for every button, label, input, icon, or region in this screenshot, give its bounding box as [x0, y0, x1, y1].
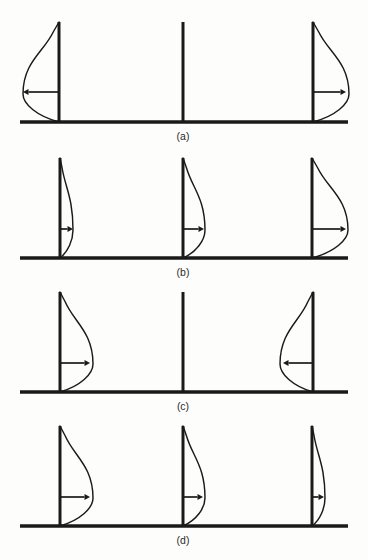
station-right-profile-curve — [312, 158, 348, 258]
station-right-arrow — [313, 89, 346, 95]
panel-label: (c) — [177, 400, 189, 412]
panels-group: (a)(b)(c)(d) — [20, 22, 349, 546]
station-group — [312, 158, 348, 258]
panel-label: (a) — [177, 130, 190, 142]
panel-c: (c) — [20, 292, 348, 412]
station-group — [313, 22, 349, 122]
station-right-profile-curve — [280, 292, 313, 392]
station-left-arrow — [60, 494, 90, 500]
panel-label: (b) — [177, 266, 190, 278]
panel-a: (a) — [20, 22, 349, 142]
figure-root: (a)(b)(c)(d) — [0, 0, 368, 560]
station-middle-arrow — [183, 226, 204, 232]
station-group — [312, 426, 325, 526]
station-left-arrow — [60, 226, 73, 232]
station-group — [23, 22, 59, 122]
station-group — [60, 292, 93, 392]
arrow-head-icon — [341, 226, 347, 232]
station-middle-profile-curve — [183, 426, 205, 526]
station-group — [183, 426, 205, 526]
station-group — [280, 292, 313, 392]
station-right-arrow — [312, 494, 324, 500]
arrow-head-icon — [68, 226, 74, 232]
arrow-head-icon — [198, 494, 204, 500]
station-middle-profile-curve — [183, 158, 205, 258]
station-right-profile-curve — [313, 22, 349, 122]
arrow-head-icon — [85, 494, 91, 500]
station-group — [183, 158, 205, 258]
panel-label: (d) — [177, 534, 190, 546]
arrow-head-icon — [85, 360, 91, 366]
station-right-arrow — [312, 226, 346, 232]
station-group — [60, 158, 73, 258]
arrow-head-icon — [199, 226, 205, 232]
station-left-profile-curve — [60, 426, 93, 526]
arrow-head-icon — [341, 89, 347, 95]
station-left-profile-curve — [60, 292, 93, 392]
panel-b: (b) — [20, 158, 348, 278]
station-group — [60, 426, 93, 526]
arrow-head-icon — [319, 494, 325, 500]
velocity-profile-figure: (a)(b)(c)(d) — [0, 0, 368, 560]
panel-d: (d) — [20, 426, 348, 546]
station-right-arrow — [283, 360, 313, 366]
station-middle-arrow — [183, 494, 203, 500]
arrow-head-icon — [283, 360, 289, 366]
station-left-profile-curve — [60, 158, 73, 258]
station-left-arrow — [60, 360, 90, 366]
station-left-profile-curve — [23, 22, 59, 122]
station-left-arrow — [23, 89, 59, 95]
station-right-profile-curve — [312, 426, 325, 526]
